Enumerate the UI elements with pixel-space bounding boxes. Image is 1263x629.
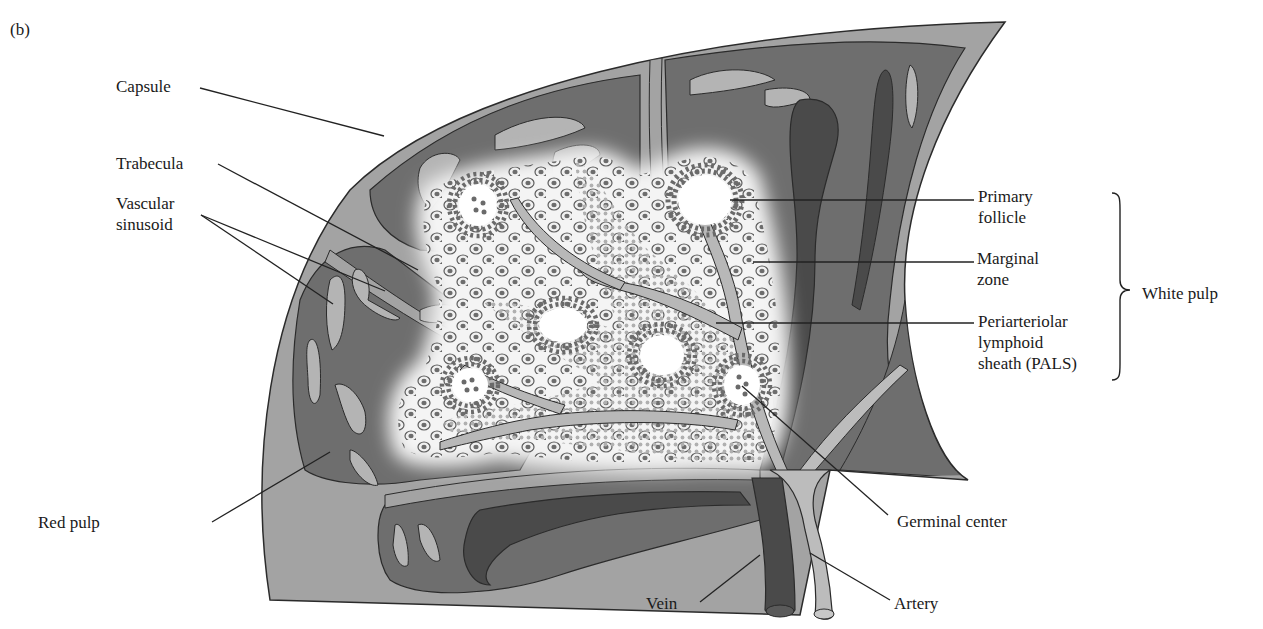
vein-cut-end	[766, 605, 794, 617]
white-pulp-bracket	[1112, 193, 1130, 380]
label-primary-follicle: Primary follicle	[978, 186, 1033, 228]
label-line: Periarteriolar	[978, 311, 1077, 332]
label-line: Vascular	[116, 193, 175, 214]
artery-cut-end	[814, 609, 834, 619]
panel-label: (b)	[10, 20, 30, 40]
label-line: follicle	[978, 207, 1033, 228]
label-line: sheath (PALS)	[978, 353, 1077, 374]
label-trabecula: Trabecula	[116, 153, 183, 174]
capsule-leader	[200, 88, 384, 136]
spleen-diagram: (b) Capsule Trabecula Vascular sinusoid …	[0, 0, 1263, 629]
label-marginal-zone: Marginal zone	[977, 248, 1039, 290]
label-vascular-sinusoid: Vascular sinusoid	[116, 193, 175, 235]
label-capsule: Capsule	[116, 76, 171, 97]
follicle-middle	[529, 298, 597, 352]
label-line: lymphoid	[978, 332, 1077, 353]
label-vein: Vein	[646, 593, 677, 614]
label-red-pulp: Red pulp	[38, 512, 100, 533]
label-line: Marginal	[977, 248, 1039, 269]
label-line: zone	[977, 269, 1039, 290]
label-germinal-center: Germinal center	[897, 511, 1007, 532]
label-line: sinusoid	[116, 214, 175, 235]
label-white-pulp: White pulp	[1142, 283, 1218, 304]
label-pals: Periarteriolar lymphoid sheath (PALS)	[978, 311, 1077, 374]
label-line: Primary	[978, 186, 1033, 207]
label-artery: Artery	[894, 593, 938, 614]
